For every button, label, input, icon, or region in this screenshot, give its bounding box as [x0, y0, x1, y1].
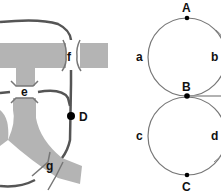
band-f-right — [80, 43, 108, 68]
label-e: e — [21, 85, 28, 99]
band-left-edge — [0, 110, 8, 146]
right-diagram: A B C a b c d — [136, 1, 221, 194]
track-top — [0, 20, 71, 40]
gray-bands — [0, 43, 108, 184]
track-e-right — [38, 91, 70, 106]
node-c — [185, 173, 190, 178]
band-f-left — [0, 43, 66, 68]
label-b-node: B — [182, 80, 191, 94]
label-a-node: A — [182, 1, 191, 15]
label-g: g — [46, 159, 53, 173]
label-f: f — [67, 50, 72, 64]
node-d — [67, 112, 75, 120]
label-arc-c: c — [136, 129, 143, 143]
left-diagram: f e g D — [0, 20, 108, 190]
track-g-left — [0, 180, 35, 186]
node-a — [185, 16, 190, 21]
label-d: D — [79, 110, 88, 124]
node-b — [184, 93, 190, 99]
label-arc-d: d — [211, 129, 218, 143]
branch-upper — [216, 30, 221, 36]
label-arc-b: b — [211, 50, 218, 64]
track-e-left — [0, 92, 10, 93]
diagram-canvas: f e g D A B C a b c d — [0, 0, 221, 196]
label-arc-a: a — [136, 50, 143, 64]
label-c-node: C — [182, 180, 191, 194]
band-stem — [16, 66, 35, 86]
